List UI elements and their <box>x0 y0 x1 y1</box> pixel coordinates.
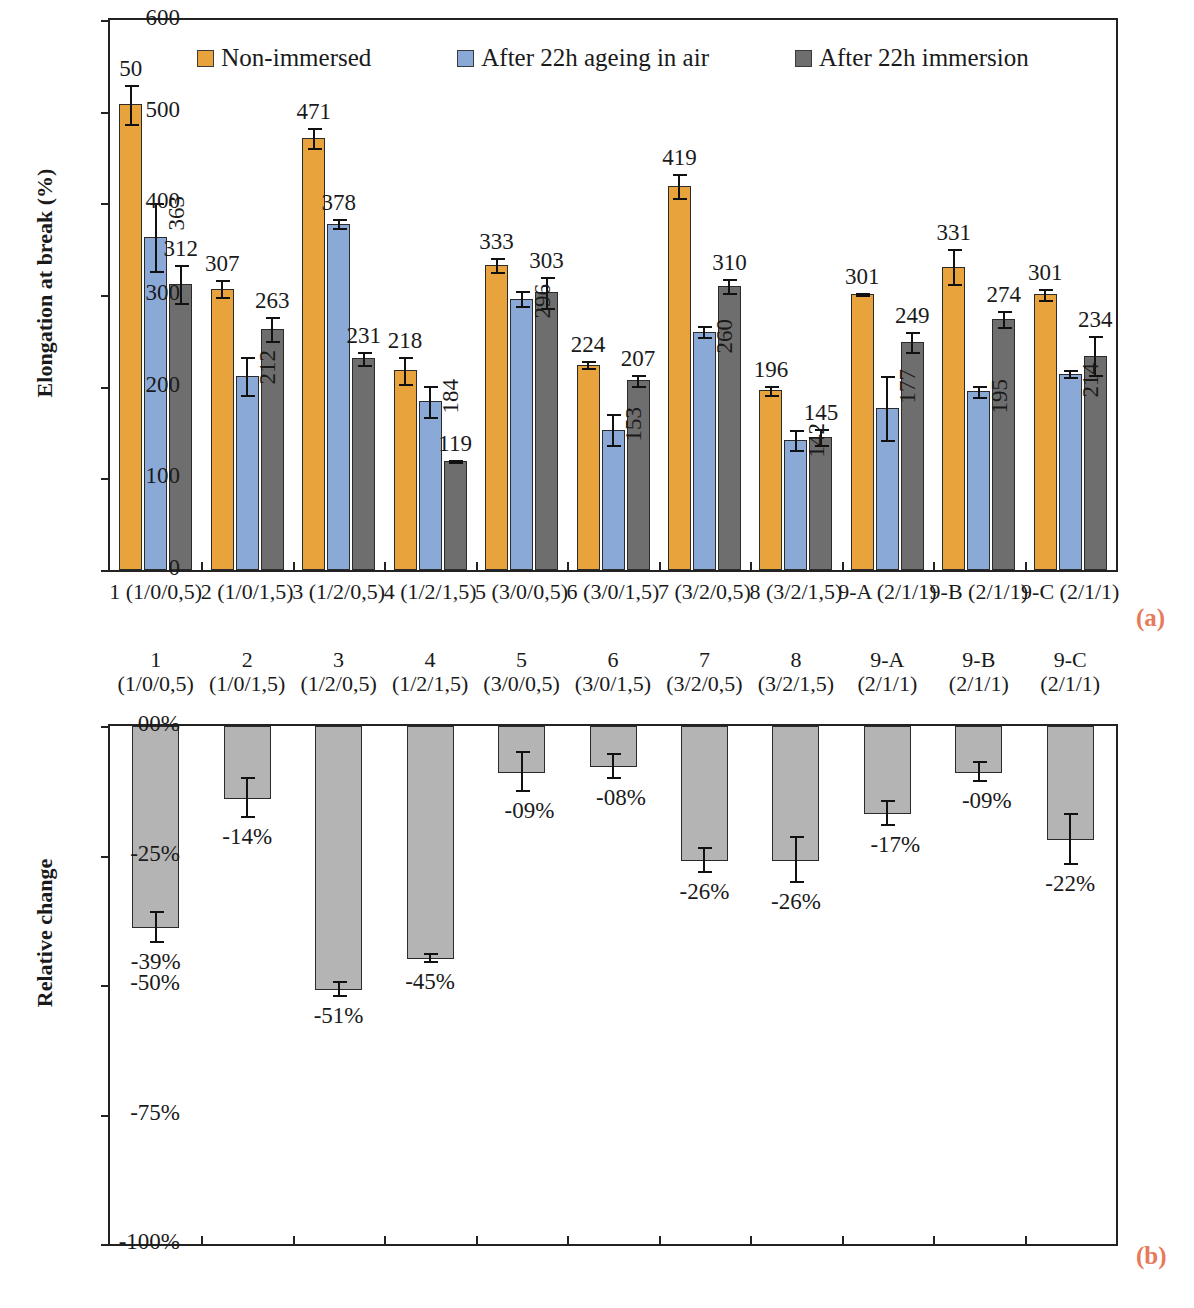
panel-b-value-label: -08% <box>596 786 646 809</box>
panel-b-bar[interactable] <box>315 726 362 990</box>
panel-a-x-tick-mark <box>293 562 295 571</box>
panel-b-error-bar <box>886 800 888 826</box>
panel-b-x-category-label: 9-A(2/1/1) <box>857 648 917 696</box>
panel-a-bar-non-immersed[interactable] <box>1034 294 1057 570</box>
panel-a-bar-non-immersed[interactable] <box>394 370 417 570</box>
panel-a-y-tick-mark <box>101 478 110 480</box>
panel-a-value-label: 301 <box>845 265 880 288</box>
panel-a-y-axis-label: Elongation at break (%) <box>32 118 58 448</box>
panel-a-bar-non-immersed[interactable] <box>759 390 782 570</box>
panel-b-x-category-code: (1/2/0,5) <box>300 672 376 696</box>
panel-b-x-category-label: 8(3/2/1,5) <box>758 648 834 696</box>
panel-a-bar-after-22h-immersion[interactable] <box>352 358 375 570</box>
panel-a-error-bar <box>1003 311 1005 329</box>
panel-b-x-tick-mark <box>842 1236 844 1245</box>
panel-a-x-tick-mark <box>384 562 386 571</box>
panel-a-x-tick-mark <box>567 562 569 571</box>
panel-a-x-category-label: 9-B (2/1/1) <box>930 580 1028 604</box>
panel-a-bar-group <box>851 20 924 570</box>
panel-b-x-category-label: 5(3/0/0,5) <box>483 648 559 696</box>
panel-a-value-label: 378 <box>321 191 356 214</box>
panel-a-error-bar <box>521 291 523 308</box>
panel-a-value-label: 145 <box>804 401 839 424</box>
panel-a-error-bar <box>1069 370 1071 379</box>
panel-a-x-category-label: 2 (1/0/1,5) <box>201 580 294 604</box>
panel-a-error-bar <box>978 386 980 399</box>
panel-a-bar-after-22h-ageing-in-air[interactable] <box>693 332 716 570</box>
panel-a-bar-non-immersed[interactable] <box>211 289 234 570</box>
panel-b-x-category-label: 7(3/2/0,5) <box>666 648 742 696</box>
panel-a-bar-after-22h-ageing-in-air[interactable] <box>419 401 442 570</box>
panel-a-bar-non-immersed[interactable] <box>668 186 691 570</box>
panel-a-bar-after-22h-ageing-in-air[interactable] <box>510 299 533 570</box>
panel-a-error-bar <box>221 280 223 298</box>
panel-a-bar-after-22h-immersion[interactable] <box>444 461 467 570</box>
panel-a-bar-after-22h-ageing-in-air[interactable] <box>327 224 350 571</box>
panel-a-value-label: 303 <box>529 249 564 272</box>
panel-a-error-bar <box>404 357 406 386</box>
panel-a-value-label: 333 <box>479 230 514 253</box>
panel-b-value-label: -26% <box>771 890 821 913</box>
panel-b-value-label: -45% <box>405 970 455 993</box>
panel-b-x-tick-mark <box>1116 1236 1118 1245</box>
panel-b-x-category-label: 3(1/2/0,5) <box>300 648 376 696</box>
panel-b-y-tick-mark <box>101 1244 110 1246</box>
panel-a-bar-after-22h-ageing-in-air[interactable] <box>784 440 807 570</box>
panel-a-bar-non-immersed[interactable] <box>119 104 142 570</box>
panel-a-x-tick-mark <box>1025 562 1027 571</box>
panel-a-bar-after-22h-ageing-in-air[interactable] <box>236 376 259 570</box>
panel-a-value-label: 142 <box>805 423 828 458</box>
panel-a-bar-after-22h-ageing-in-air[interactable] <box>967 391 990 570</box>
panel-b-bar[interactable] <box>132 726 179 928</box>
panel-b-y-axis-label: Relative change <box>32 778 58 1088</box>
panel-b-bar[interactable] <box>955 726 1002 773</box>
panel-b-bar[interactable] <box>1047 726 1094 840</box>
panel-a-y-tick: 600 <box>110 5 180 31</box>
panel-a-error-bar <box>429 386 431 419</box>
panel-b-bar[interactable] <box>590 726 637 767</box>
panel-b-x-category-id: 9-B <box>949 648 1009 672</box>
panel-b-error-bar <box>703 847 705 873</box>
panel-b-bar[interactable] <box>681 726 728 861</box>
panel-a-y-tick: 100 <box>110 463 180 489</box>
panel-a-bar-after-22h-immersion[interactable] <box>169 284 192 570</box>
panel-a-value-label: 301 <box>1028 261 1063 284</box>
panel-a-bar-group <box>668 20 741 570</box>
panel-a-value-label: 214 <box>1079 363 1102 398</box>
panel-b-bar[interactable] <box>772 726 819 861</box>
panel-a-y-tick-mark <box>101 387 110 389</box>
panel-b-value-label: -14% <box>222 825 272 848</box>
panel-a-value-label: 274 <box>987 283 1022 306</box>
panel-b-bar[interactable] <box>498 726 545 773</box>
panel-b-bar[interactable] <box>864 726 911 814</box>
panel-a-bar-non-immersed[interactable] <box>942 267 965 570</box>
panel-b-y-tick: -25% <box>110 841 180 867</box>
panel-a-value-label: 419 <box>662 146 697 169</box>
panel-b-x-tick-mark <box>1025 1236 1027 1245</box>
panel-a-bar-non-immersed[interactable] <box>851 294 874 570</box>
panel-b-x-tick-mark <box>201 1236 203 1245</box>
panel-a-value-label: 471 <box>296 100 331 123</box>
panel-b-bar[interactable] <box>224 726 271 799</box>
panel-a-x-tick-mark <box>933 562 935 571</box>
panel-a-bar-after-22h-immersion[interactable] <box>992 319 1015 570</box>
panel-a-error-bar <box>953 249 955 286</box>
panel-a-bar-non-immersed[interactable] <box>485 265 508 570</box>
panel-a-x-category-label: 6 (3/0/1,5) <box>567 580 660 604</box>
panel-a-error-bar <box>612 414 614 447</box>
panel-b-bar[interactable] <box>407 726 454 959</box>
panel-b-x-category-label: 4(1/2/1,5) <box>392 648 468 696</box>
panel-b-error-bar <box>155 911 157 942</box>
panel-b-x-category-id: 9-C <box>1040 648 1100 672</box>
panel-b-y-tick-mark <box>101 726 110 728</box>
panel-a-x-tick-mark <box>476 562 478 571</box>
panel-a-bar-after-22h-ageing-in-air[interactable] <box>1059 374 1082 570</box>
panel-a-x-tick-mark <box>842 562 844 571</box>
panel-a-bar-after-22h-ageing-in-air[interactable] <box>876 408 899 570</box>
panel-b-y-tick-mark <box>101 1115 110 1117</box>
panel-a-bar-after-22h-ageing-in-air[interactable] <box>602 430 625 570</box>
panel-a-bar-non-immersed[interactable] <box>577 365 600 570</box>
panel-b-y-tick: -100% <box>110 1229 180 1255</box>
panel-b-x-category-id: 3 <box>300 648 376 672</box>
panel-a-bar-after-22h-immersion[interactable] <box>535 292 558 570</box>
